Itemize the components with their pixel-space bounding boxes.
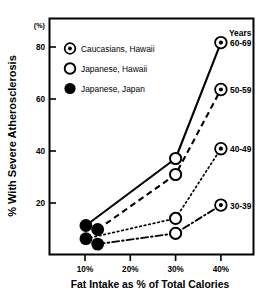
y-axis-title: % With Severe Atherosclerosis [6, 55, 18, 217]
x-tick-label-30: 30% [167, 265, 184, 274]
data-point-60-69-caucasian [215, 37, 227, 49]
y-tick-label-20: 20 [36, 199, 46, 208]
x-tick-label-40: 40% [213, 265, 230, 274]
circled-dot-icon [65, 43, 76, 54]
y-tick-label-80: 80 [36, 43, 46, 52]
data-point-40-49-caucasian [215, 143, 227, 155]
data-point-50-59-caucasian [215, 84, 227, 96]
series-label-30-39: 30-39 [230, 201, 252, 211]
x-tick-label-10: 10% [77, 265, 94, 274]
open-circle-icon [65, 63, 76, 74]
filled-circle-icon [64, 83, 75, 94]
series-label-40-49: 40-49 [230, 144, 252, 154]
legend-label-japanese-japan: Japanese, Japan [81, 84, 145, 94]
data-point-40-49-japan [80, 232, 93, 245]
y-axis-unit-label: (%) [34, 21, 46, 30]
y-tick-label-60: 60 [36, 95, 46, 104]
x-axis-title: Fat Intake as % of Total Calories [71, 279, 230, 290]
data-point-50-59-jp-hawaii [170, 169, 181, 180]
data-point-60-69-jp-hawaii [170, 153, 181, 164]
data-point-60-69-japan [80, 219, 93, 232]
plot-frame [50, 19, 254, 255]
data-point-50-59-japan [91, 223, 104, 236]
legend-label-caucasians-hawaii: Caucasians, Hawaii [81, 44, 155, 54]
x-tick-label-20: 20% [122, 265, 139, 274]
atherosclerosis-fat-intake-chart: (%) 80 60 40 20 10% 20% 30% 40% Fat Inta… [0, 0, 275, 302]
series-label-60-69: 60-69 [230, 38, 252, 48]
data-point-30-39-japan [91, 238, 104, 251]
data-point-30-39-jp-hawaii [170, 228, 181, 239]
y-tick-label-40: 40 [36, 147, 46, 156]
data-point-30-39-caucasian [215, 199, 227, 211]
series-group-title: Years [229, 28, 252, 38]
legend-label-japanese-hawaii: Japanese, Hawaii [81, 64, 147, 74]
data-point-40-49-jp-hawaii [170, 213, 181, 224]
series-label-50-59: 50-59 [230, 85, 252, 95]
